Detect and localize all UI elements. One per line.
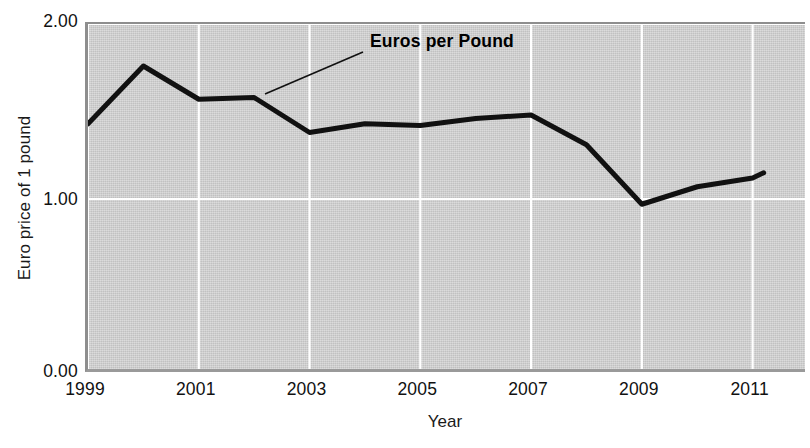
line-chart-figure: Euro price of 1 pound 2.00 1.00 0.00 199… — [0, 0, 810, 448]
y-tick-label-2: 2.00 — [16, 11, 78, 32]
x-tick-label-2001: 2001 — [156, 379, 236, 400]
x-tick-label-2005: 2005 — [377, 379, 457, 400]
x-tick-label-1999: 1999 — [45, 379, 125, 400]
annotation-leader-line — [265, 52, 363, 94]
x-tick-label-2009: 2009 — [599, 379, 679, 400]
y-tick-label-1: 1.00 — [16, 189, 78, 210]
x-axis-title: Year — [85, 412, 805, 432]
series-line-euros-per-pound — [88, 66, 764, 204]
x-tick-label-2007: 2007 — [488, 379, 568, 400]
series-annotation-label: Euros per Pound — [370, 31, 514, 52]
plot-canvas — [88, 24, 805, 372]
plot-area — [85, 22, 805, 372]
x-tick-label-2003: 2003 — [267, 379, 347, 400]
x-axis-tick-labels: 1999200120032005200720092011 — [0, 379, 810, 407]
x-tick-label-2011: 2011 — [710, 379, 790, 400]
